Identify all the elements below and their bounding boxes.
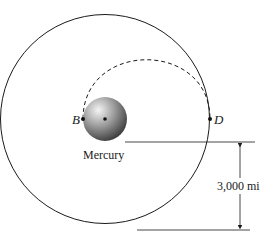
planet-center-dot	[103, 117, 107, 121]
point-d-label: D	[213, 112, 224, 127]
point-b-label: B	[72, 112, 80, 127]
planet-label: Mercury	[83, 148, 124, 162]
point-b-dot	[81, 117, 85, 121]
point-d-dot	[208, 117, 212, 121]
dimension-label: 3,000 mi	[217, 179, 260, 193]
orbit-diagram: B D Mercury 3,000 mi	[0, 0, 265, 246]
